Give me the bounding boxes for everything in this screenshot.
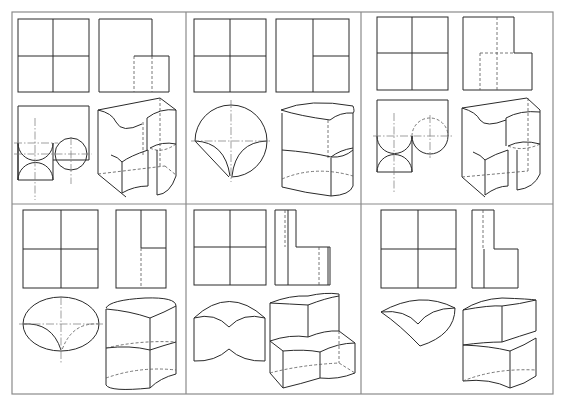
side-view <box>116 210 166 288</box>
drawing-sheet <box>0 0 564 409</box>
front-view <box>194 19 266 92</box>
top-view <box>373 100 452 194</box>
panel-e <box>194 210 355 388</box>
panel-a <box>14 19 176 200</box>
panel-c <box>373 17 540 197</box>
front-view <box>194 210 266 285</box>
panel-f <box>381 210 536 388</box>
isometric-view <box>270 293 355 388</box>
top-view <box>14 106 92 200</box>
side-view <box>463 17 532 90</box>
front-view <box>23 210 98 288</box>
side-view <box>99 19 169 92</box>
panel-d <box>19 210 176 389</box>
top-view <box>194 302 265 362</box>
side-view <box>472 210 518 288</box>
top-view <box>19 297 103 363</box>
top-view <box>381 300 455 346</box>
side-view <box>276 19 349 92</box>
front-view <box>381 210 456 288</box>
top-view <box>191 100 271 182</box>
sheet-frame <box>12 12 553 394</box>
front-view <box>377 17 448 90</box>
isometric-view <box>281 103 354 196</box>
figure-stage <box>0 0 564 409</box>
isometric-view <box>462 98 540 197</box>
isometric-view <box>463 298 536 388</box>
isometric-view <box>98 98 176 197</box>
isometric-view <box>106 298 176 390</box>
front-view <box>18 19 89 92</box>
side-view <box>275 210 330 285</box>
panel-b <box>191 19 354 196</box>
